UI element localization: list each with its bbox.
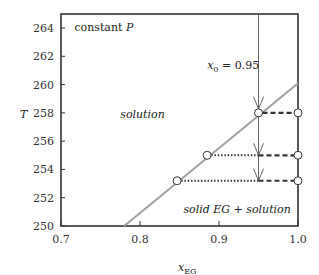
solid-marker xyxy=(294,109,302,117)
x-axis-label: xEG xyxy=(178,261,196,275)
y-tick-label: 262 xyxy=(33,50,54,63)
x-tick-label: 0.7 xyxy=(52,233,70,246)
annotation-solid-eg-solution: solid EG + solution xyxy=(183,203,290,216)
y-tick-label: 252 xyxy=(33,192,54,205)
annotation-constant-p: constant P xyxy=(74,21,133,34)
plot-frame xyxy=(61,14,298,226)
solid-marker xyxy=(294,177,302,185)
liquid-marker xyxy=(173,177,181,185)
liquid-marker xyxy=(255,109,263,117)
x-tick-label: 0.9 xyxy=(210,233,228,246)
plot-area: 2502522542562582602622640.70.80.91.0TxEG… xyxy=(20,14,307,275)
y-tick-label: 264 xyxy=(33,22,54,35)
x-tick-label: 0.8 xyxy=(131,233,149,246)
solid-marker xyxy=(294,151,302,159)
annotation-x0: x0 = 0.95 xyxy=(207,59,259,74)
y-tick-label: 250 xyxy=(33,220,54,233)
y-tick-label: 258 xyxy=(33,107,54,120)
y-tick-label: 256 xyxy=(33,135,54,148)
y-tick-label: 254 xyxy=(33,163,54,176)
y-tick-label: 260 xyxy=(33,79,54,92)
phase-diagram-chart: 2502522542562582602622640.70.80.91.0TxEG… xyxy=(0,0,319,275)
liquid-marker xyxy=(203,151,211,159)
x-tick-label: 1.0 xyxy=(289,233,307,246)
annotation-solution: solution xyxy=(120,108,165,121)
y-axis-label: T xyxy=(20,108,29,121)
